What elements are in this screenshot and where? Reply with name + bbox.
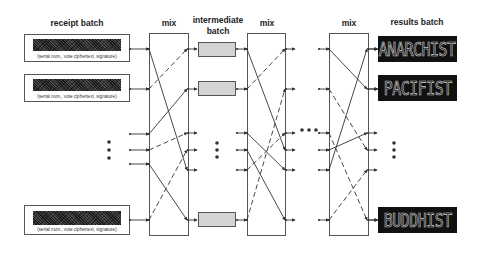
input-dot <box>318 149 320 151</box>
permutation-wire <box>329 133 367 150</box>
wire-start-dot <box>328 169 330 171</box>
ellipsis-dot <box>215 148 219 152</box>
output-dot <box>367 149 369 151</box>
wire-start-dot <box>246 149 248 151</box>
wire-start-dot <box>148 149 150 151</box>
ellipsis-dot <box>300 128 304 132</box>
ellipsis-dot <box>215 155 219 159</box>
permutation-wire <box>329 49 367 89</box>
ellipsis-dot <box>107 140 111 144</box>
ellipsis-dot <box>392 141 396 145</box>
input-dot <box>129 219 131 221</box>
input-dot <box>129 88 131 90</box>
output-dot <box>285 132 287 134</box>
wire-start-dot <box>328 219 330 221</box>
input-dot <box>318 169 320 171</box>
permutation-wire <box>247 49 285 150</box>
permutation-wire <box>329 49 367 170</box>
input-dot <box>318 132 320 134</box>
wire-start-dot <box>246 88 248 90</box>
permutation-wire <box>149 89 187 134</box>
permutation-wire <box>149 150 187 220</box>
input-dot <box>236 149 238 151</box>
output-dot <box>187 219 189 221</box>
output-dot <box>285 219 287 221</box>
input-dot <box>236 169 238 171</box>
input-dot <box>129 149 131 151</box>
ellipsis-dot <box>107 156 111 160</box>
wire-start-dot <box>246 48 248 50</box>
permutation-wire <box>149 49 187 170</box>
ellipsis-dot <box>107 148 111 152</box>
wire-start-dot <box>328 132 330 134</box>
output-dot <box>187 149 189 151</box>
output-dot <box>285 48 287 50</box>
permutation-wire <box>247 89 285 220</box>
ellipsis-dot <box>392 148 396 152</box>
wire-start-dot <box>328 88 330 90</box>
permutation-wire <box>329 89 367 150</box>
wire-start-dot <box>246 132 248 134</box>
input-dot <box>318 48 320 50</box>
output-dot <box>367 132 369 134</box>
wire-start-dot <box>148 163 150 165</box>
input-dot <box>129 48 131 50</box>
output-dot <box>187 169 189 171</box>
input-dot <box>318 88 320 90</box>
permutation-wire <box>247 49 285 89</box>
permutation-wire <box>149 49 187 89</box>
output-dot <box>285 149 287 151</box>
wire-start-dot <box>328 149 330 151</box>
input-dot <box>236 48 238 50</box>
wire-start-dot <box>148 88 150 90</box>
ellipsis-dot <box>392 155 396 159</box>
wire-start-dot <box>148 133 150 135</box>
input-dot <box>236 219 238 221</box>
input-dot <box>236 88 238 90</box>
wire-start-dot <box>328 48 330 50</box>
permutation-wire <box>329 133 367 220</box>
output-dot <box>187 88 189 90</box>
mixnet-diagram: receipt batch mix intermediate batch mix… <box>0 0 480 256</box>
input-dot <box>318 219 320 221</box>
permutation-wire <box>149 133 187 150</box>
output-dot <box>367 169 369 171</box>
permutation-wire <box>247 150 285 220</box>
ellipsis-dot <box>215 141 219 145</box>
output-dot <box>285 88 287 90</box>
ellipsis-dot <box>314 128 318 132</box>
wire-start-dot <box>148 48 150 50</box>
output-dot <box>285 169 287 171</box>
wire-start-dot <box>246 169 248 171</box>
input-dot <box>129 133 131 135</box>
wire-start-dot <box>246 219 248 221</box>
connection-wires <box>0 0 480 256</box>
output-dot <box>187 48 189 50</box>
wire-start-dot <box>148 219 150 221</box>
input-dot <box>129 163 131 165</box>
output-dot <box>187 132 189 134</box>
ellipsis-dot <box>307 128 311 132</box>
permutation-wire <box>149 164 187 220</box>
input-dot <box>236 132 238 134</box>
